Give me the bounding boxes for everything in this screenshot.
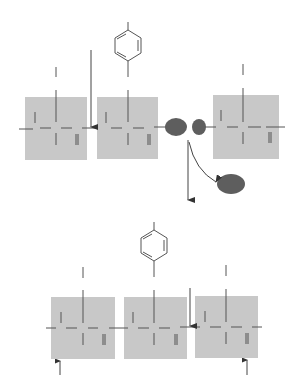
benzene-ring-icon bbox=[141, 230, 167, 261]
bottom-panel bbox=[46, 222, 262, 375]
top-unit-1 bbox=[25, 67, 87, 160]
top-unit-3 bbox=[213, 64, 279, 159]
released-fragment bbox=[217, 174, 245, 194]
bottom-unit-2-box bbox=[124, 297, 187, 359]
bottom-unit-3 bbox=[195, 265, 258, 358]
fragment-small bbox=[192, 119, 206, 135]
top-unit-2-phenyl bbox=[97, 22, 158, 159]
top-panel bbox=[19, 22, 285, 200]
bottom-unit-1 bbox=[51, 267, 115, 359]
release-arrow bbox=[189, 142, 216, 182]
benzene-ring-icon bbox=[115, 30, 141, 61]
diagram-canvas bbox=[0, 0, 296, 391]
bottom-unit-2-phenyl bbox=[124, 222, 187, 359]
fragment-large bbox=[165, 118, 187, 136]
